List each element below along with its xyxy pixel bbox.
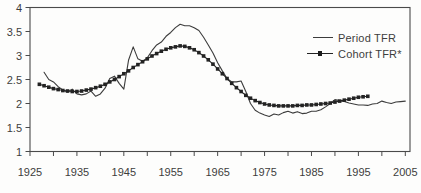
series-marker	[42, 84, 46, 88]
series-marker	[282, 104, 286, 108]
series-marker	[347, 97, 351, 101]
series-marker	[89, 87, 93, 91]
y-axis-tick-label: 2.5	[7, 74, 22, 86]
x-axis-tick-label: 1975	[252, 166, 276, 178]
y-axis-tick-label: 1	[16, 146, 22, 158]
y-axis-tick-label: 3	[16, 50, 22, 62]
series-marker	[249, 96, 253, 100]
series-marker	[164, 47, 168, 51]
series-marker	[239, 90, 243, 94]
series-marker	[188, 46, 192, 50]
series-marker	[141, 60, 145, 64]
x-axis-tick-label: 1965	[205, 166, 229, 178]
series-marker	[314, 103, 318, 107]
y-axis-tick-label: 2	[16, 98, 22, 110]
axes-frame	[30, 8, 410, 152]
series-marker	[84, 88, 88, 92]
y-axis-tick-label: 3.5	[7, 26, 22, 38]
series-marker	[75, 90, 79, 94]
legend-item-cohort-tfr: Cohort TFR*	[306, 47, 402, 60]
series-marker	[216, 67, 220, 71]
series-marker	[244, 94, 248, 98]
series-marker	[211, 62, 215, 66]
series-marker	[178, 44, 182, 48]
series-marker	[258, 101, 262, 105]
x-axis-tick-label: 1945	[112, 166, 136, 178]
legend-label-period-tfr: Period TFR	[338, 32, 396, 44]
x-axis-tick-label: 1995	[346, 166, 370, 178]
series-marker	[263, 102, 267, 106]
x-axis-tick-label: 2005	[393, 166, 417, 178]
series-marker	[235, 86, 239, 90]
series-marker	[99, 84, 103, 88]
series-marker	[183, 45, 187, 49]
y-axis-tick-label: 4	[16, 2, 22, 14]
series-marker	[197, 51, 201, 55]
series-marker	[192, 48, 196, 52]
legend-swatch-box	[306, 37, 333, 38]
series-marker	[131, 66, 135, 70]
y-axis-tick-label: 1.5	[7, 122, 22, 134]
legend-label-cohort-tfr: Cohort TFR*	[338, 48, 402, 60]
series-marker	[319, 102, 323, 106]
line-square-swatch-icon	[307, 53, 333, 54]
series-marker	[328, 101, 332, 105]
series-marker	[343, 98, 347, 102]
series-marker	[272, 104, 276, 108]
series-marker	[113, 78, 117, 82]
series-marker	[338, 99, 342, 103]
series-marker	[160, 49, 164, 53]
legend-item-period-tfr: Period TFR	[306, 31, 402, 44]
series-marker	[310, 103, 314, 107]
series-marker	[225, 77, 229, 81]
series-marker	[66, 89, 70, 93]
series-marker	[324, 102, 328, 106]
series-marker	[38, 83, 42, 87]
series-marker	[127, 69, 131, 73]
line-swatch-icon	[313, 37, 333, 38]
series-marker	[155, 52, 159, 56]
series-marker	[286, 104, 290, 108]
series-marker	[296, 104, 300, 108]
series-marker	[145, 57, 149, 61]
series-marker	[150, 54, 154, 58]
series-marker	[169, 46, 173, 50]
series-marker	[70, 90, 74, 94]
series-marker	[47, 85, 51, 89]
series-marker	[253, 99, 257, 103]
tfr-chart-figure: 19251935194519551965197519851995200511.5…	[0, 0, 421, 193]
series-marker	[108, 80, 112, 84]
series-marker	[202, 54, 206, 58]
x-axis-tick-label: 1935	[65, 166, 89, 178]
series-marker	[361, 95, 365, 99]
series-marker	[103, 83, 107, 87]
x-axis-tick-label: 1925	[18, 166, 42, 178]
series-marker	[117, 75, 121, 79]
legend-swatch-box	[306, 53, 333, 54]
series-marker	[122, 72, 126, 76]
series-marker	[56, 88, 60, 92]
series-marker	[305, 103, 309, 107]
series-marker	[277, 104, 281, 108]
series-marker	[230, 82, 234, 86]
plot-area: 19251935194519551965197519851995200511.5…	[0, 0, 421, 193]
x-axis-tick-label: 1985	[299, 166, 323, 178]
series-marker	[136, 63, 140, 67]
series-marker	[61, 89, 65, 93]
series-marker	[80, 89, 84, 93]
series-marker	[174, 45, 178, 49]
chart-legend: Period TFR Cohort TFR*	[306, 31, 402, 60]
square-marker-icon	[318, 51, 323, 56]
series-marker	[357, 95, 361, 99]
series-marker	[333, 100, 337, 104]
series-marker	[52, 87, 56, 91]
series-marker	[291, 104, 295, 108]
series-marker	[221, 72, 225, 76]
series-marker	[352, 96, 356, 100]
series-marker	[267, 103, 271, 107]
series-marker	[300, 104, 304, 108]
series-marker	[366, 95, 370, 99]
series-marker	[94, 86, 98, 90]
series-marker	[206, 58, 210, 62]
x-axis-tick-label: 1955	[158, 166, 182, 178]
